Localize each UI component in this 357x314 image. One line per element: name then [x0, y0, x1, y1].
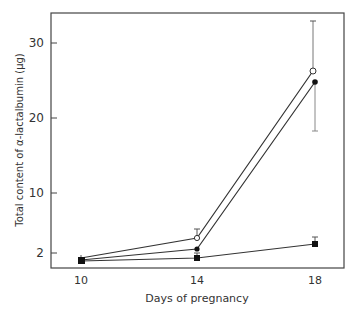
series-open-circle — [81, 21, 316, 258]
data-point-filled-square — [78, 257, 85, 264]
data-point-open-circle — [194, 235, 199, 240]
y-tick-label: 20 — [29, 111, 44, 125]
x-tick-label: 10 — [74, 274, 88, 287]
x-tick-label: 18 — [308, 274, 322, 287]
y-tick-label: 2 — [36, 246, 44, 260]
y-tick-label: 30 — [29, 36, 44, 50]
data-point-filled-square — [312, 241, 318, 247]
x-tick-label: 14 — [190, 274, 204, 287]
y-tick-label: 10 — [29, 186, 44, 200]
chart: 30 20 10 2 Total content of α-lactalbumi… — [0, 0, 357, 314]
y-axis-label: Total content of α-lactalbumin (µg) — [14, 53, 25, 228]
x-axis: 10 14 18 Days of pregnancy — [74, 274, 322, 305]
data-point-open-circle — [310, 68, 316, 74]
data-point-filled-square — [194, 255, 200, 261]
data-point-filled-circle — [194, 246, 199, 251]
data-point-filled-circle — [312, 79, 318, 85]
x-axis-label: Days of pregnancy — [145, 292, 249, 305]
series-filled-circle — [81, 79, 318, 260]
